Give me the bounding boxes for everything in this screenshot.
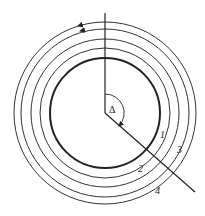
orbit-label-2: 2 <box>138 163 143 174</box>
orbit-label-4: 4 <box>155 185 160 196</box>
circular-orbit-diagram: Δ 1 2 3 4 <box>0 0 205 216</box>
arrow-orbit-2 <box>146 161 153 166</box>
angle-label: Δ <box>109 104 116 115</box>
arrow-orbit-1 <box>154 141 159 149</box>
orbit-label-3: 3 <box>176 144 182 155</box>
orbit-label-1: 1 <box>160 129 165 140</box>
